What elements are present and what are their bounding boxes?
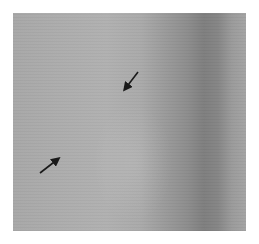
annotation-arrows — [0, 0, 259, 244]
arrow-upper-icon — [125, 72, 138, 89]
arrow-lower-icon — [40, 159, 58, 173]
